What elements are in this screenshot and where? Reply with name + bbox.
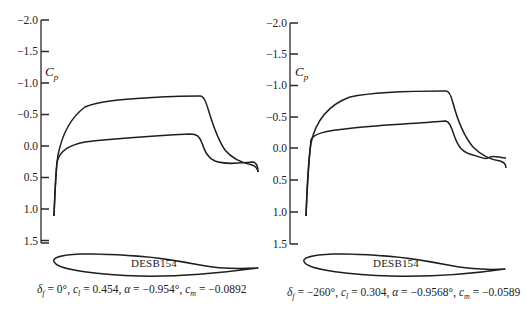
y-axis-label: Cp (295, 64, 308, 82)
chart-caption: δf = −260°, cl = 0.304, α = −0.9568°, cm… (287, 286, 520, 301)
y-tick-label: 1.0 (4, 203, 38, 215)
y-tick-label: 0.0 (4, 140, 38, 152)
y-tick-label: 0.0 (253, 142, 287, 154)
y-tick-label: 1.0 (253, 206, 287, 218)
y-axis-label: Cp (45, 64, 58, 82)
cp-chart-left: −2.0 −1.5 −1.0 −0.5 0.0 0.5 1.0 1.5 Cp D… (0, 0, 263, 314)
y-tick-label: 1.5 (4, 235, 38, 247)
y-tick-label: 0.5 (253, 174, 287, 186)
y-ticks (41, 20, 49, 243)
airfoil-label: DESB154 (373, 257, 419, 269)
y-tick-label: 0.5 (4, 171, 38, 183)
y-tick-label: −2.0 (4, 14, 38, 26)
lower-surface-curve (306, 121, 506, 216)
y-tick-label: −2.0 (253, 17, 287, 29)
y-tick-label: −1.0 (4, 77, 38, 89)
y-ticks (290, 23, 298, 244)
y-tick-label: −0.5 (253, 111, 287, 123)
lower-surface-curve (54, 134, 258, 216)
airfoil-label: DESB154 (131, 257, 177, 269)
y-tick-label: −1.0 (253, 79, 287, 91)
cp-chart-right: −2.0 −1.5 −1.0 −0.5 0.0 0.5 1.0 1.5 Cp D… (263, 0, 526, 314)
y-tick-label: −1.5 (253, 48, 287, 60)
chart-caption: δf = 0°, cl = 0.454, α = −0.954°, cm = −… (37, 283, 246, 298)
upper-surface-curve (54, 96, 258, 216)
y-tick-label: −0.5 (4, 108, 38, 120)
y-tick-label: −1.5 (4, 45, 38, 57)
y-tick-label: 1.5 (253, 238, 287, 250)
upper-surface-curve (306, 91, 506, 216)
